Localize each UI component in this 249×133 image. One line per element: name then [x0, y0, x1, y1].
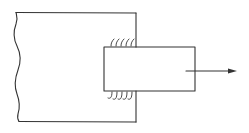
- hatch-bottom: [108, 92, 132, 99]
- pull-arrow: [186, 69, 237, 74]
- break-line: [14, 13, 20, 122]
- small-bar: [104, 47, 195, 91]
- large-block-bottom-edge: [19, 122, 136, 123]
- arrow-head-icon: [228, 69, 237, 74]
- large-block-top-edge: [16, 13, 136, 14]
- diagram-canvas: [0, 0, 249, 133]
- large-block: [14, 13, 136, 123]
- hatch-top: [111, 39, 134, 46]
